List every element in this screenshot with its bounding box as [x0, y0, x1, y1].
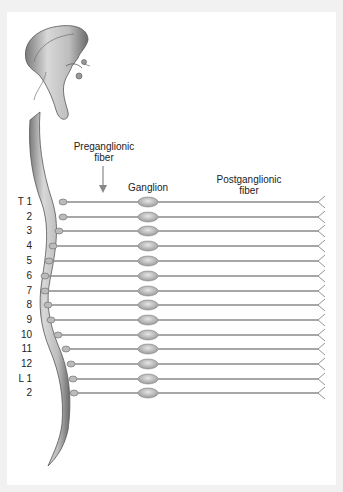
- fiber-row-t11: [62, 343, 325, 355]
- sympathetic-chain-diagram: [0, 0, 343, 492]
- segment-label-t8: 8: [2, 299, 32, 310]
- segment-label-t1: T 1: [2, 196, 32, 207]
- preganglionic-label-line2: fiber: [70, 152, 138, 163]
- preganglionic-label-line1: Preganglionic: [70, 141, 138, 152]
- segment-label-t4: 4: [2, 240, 32, 251]
- fiber-row-t7: [41, 285, 325, 297]
- fiber-row-t12: [67, 358, 325, 370]
- fiber-row-t2: [59, 211, 325, 223]
- postganglionic-label-line1: Postganglionic: [211, 174, 287, 185]
- segment-label-t10: 10: [2, 329, 32, 340]
- segment-label-t6: 6: [2, 270, 32, 281]
- segment-label-l2: 2: [2, 387, 32, 398]
- spinal-cord: [30, 112, 70, 466]
- fiber-rows: [41, 196, 325, 399]
- fiber-row-l1: [69, 373, 325, 385]
- fiber-row-l2: [70, 387, 325, 399]
- ganglion-label: Ganglion: [128, 182, 168, 193]
- segment-label-t5: 5: [2, 255, 32, 266]
- preganglionic-fiber-label: Preganglionic fiber: [70, 141, 138, 163]
- fiber-row-t4: [49, 240, 325, 252]
- fiber-row-t1: [59, 196, 325, 208]
- fiber-row-t5: [45, 255, 325, 267]
- segment-label-t12: 12: [2, 358, 32, 369]
- postganglionic-fiber-label: Postganglionic fiber: [211, 174, 287, 196]
- fiber-row-t8: [44, 299, 325, 311]
- brainstem-illustration: [25, 26, 90, 120]
- fiber-row-t6: [41, 270, 325, 282]
- fiber-row-t10: [54, 329, 325, 341]
- segment-label-t11: 11: [2, 343, 32, 354]
- fiber-row-t9: [47, 314, 325, 326]
- preganglionic-arrow: [99, 166, 107, 193]
- segment-label-t2: 2: [2, 211, 32, 222]
- segment-label-t9: 9: [2, 314, 32, 325]
- segment-label-t3: 3: [2, 225, 32, 236]
- postganglionic-label-line2: fiber: [211, 185, 287, 196]
- segment-label-l1: L 1: [2, 373, 32, 384]
- segment-label-t7: 7: [2, 285, 32, 296]
- fiber-row-t3: [55, 225, 325, 237]
